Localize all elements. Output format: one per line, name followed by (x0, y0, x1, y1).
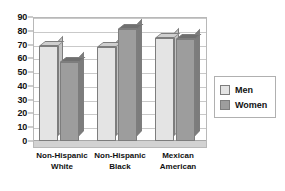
bar-group (39, 17, 79, 141)
y-tick-label: 60 (17, 53, 27, 63)
bar-group (97, 17, 137, 141)
x-axis-label-line: Mexican (149, 150, 207, 161)
x-axis-category-label: Non-HispanicWhite (33, 150, 91, 172)
bar-side-facet (195, 29, 200, 136)
bar-face (39, 46, 58, 141)
bar-face (176, 39, 195, 141)
y-tick-label: 40 (17, 81, 27, 91)
y-tick-label: 20 (17, 108, 27, 118)
x-axis-label-line: Non-Hispanic (91, 150, 149, 161)
bar-face (118, 29, 137, 141)
x-axis-label-line: Black (91, 161, 149, 172)
legend-item-men: Men (220, 82, 275, 97)
y-axis: 9080706050403020100 (0, 17, 33, 148)
bar-face (97, 47, 116, 141)
x-axis-category-label: Non-HispanicBlack (91, 150, 149, 172)
bar-side-facet (137, 19, 142, 136)
legend-swatch-men-icon (220, 85, 230, 95)
bar-face (155, 38, 174, 141)
y-tick-label: 10 (17, 122, 27, 132)
legend-label-women: Women (235, 100, 267, 110)
y-tick-label: 50 (17, 67, 27, 77)
x-axis-labels: Non-HispanicWhiteNon-HispanicBlackMexica… (33, 150, 207, 184)
legend-item-women: Women (220, 97, 275, 112)
legend-label-men: Men (235, 85, 253, 95)
y-tick-label: 90 (17, 12, 27, 22)
x-axis-category-label: MexicanAmerican (149, 150, 207, 172)
y-tick-label: 70 (17, 40, 27, 50)
bar-chart: 9080706050403020100 Non-HispanicWhiteNon… (0, 0, 285, 191)
legend: Men Women (214, 76, 276, 118)
bar-face (60, 62, 79, 141)
y-tick-label: 80 (17, 26, 27, 36)
x-axis-label-line: White (33, 161, 91, 172)
y-tick-label: 0 (22, 136, 27, 146)
bar-side-facet (79, 52, 84, 136)
x-axis-label-line: American (149, 161, 207, 172)
legend-swatch-women-icon (220, 100, 230, 110)
y-tick-label: 30 (17, 95, 27, 105)
bar-group (155, 17, 195, 141)
bars-layer (33, 17, 207, 148)
x-axis-label-line: Non-Hispanic (33, 150, 91, 161)
